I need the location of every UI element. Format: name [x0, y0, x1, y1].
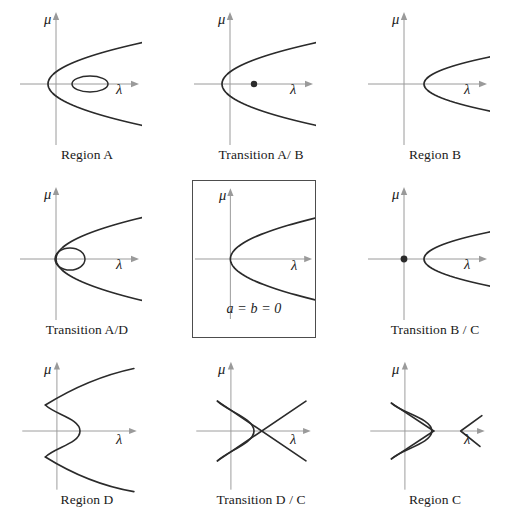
x-axis-arrow [479, 81, 487, 87]
panel-region-d: Region Dμλ [0, 350, 174, 520]
x-axis-arrow [477, 428, 485, 434]
plot-region-c [366, 355, 490, 507]
plot-region-d [18, 355, 142, 507]
panel-frame-a-b-zero: μλa = b = 0 [192, 180, 316, 338]
panel-transition-b-c: Transition B / Cμλ [348, 175, 522, 350]
plot-region-b [366, 5, 490, 163]
x-axis-arrow [129, 428, 137, 434]
x-axis-arrow [131, 256, 139, 262]
y-axis-arrow [54, 362, 60, 370]
lower-edge [391, 431, 433, 459]
y-axis-arrow [402, 362, 408, 370]
marker-dot-0 [401, 256, 408, 263]
panel-caption-a-b-zero: a = b = 0 [193, 301, 315, 317]
panel-a-b-zero: μλa = b = 0 [174, 175, 348, 350]
plot-region-a [18, 5, 142, 163]
panel-transition-a-b: Transition A/ Bμλ [174, 0, 348, 175]
panel-frame-transition-b-c: μλ [366, 180, 490, 338]
lower-branch [45, 457, 134, 492]
panel-frame-region-c: μλ [366, 355, 490, 507]
x-axis-arrow [479, 256, 487, 262]
panel-frame-region-a: μλ [18, 5, 142, 163]
panel-frame-transition-a-d: μλ [18, 180, 142, 338]
plot-transition-a-d [18, 180, 142, 338]
upper-branch [45, 368, 134, 405]
panel-region-c: Region Cμλ [348, 350, 522, 520]
y-axis-arrow [53, 12, 59, 20]
y-axis-arrow [227, 188, 233, 196]
x-axis-arrow [131, 81, 139, 87]
y-axis-arrow [227, 12, 233, 20]
panel-frame-region-d: μλ [18, 355, 142, 507]
x-axis-arrow [303, 428, 311, 434]
y-axis-arrow [401, 12, 407, 20]
panel-grid: Region AμλTransition A/ BμλRegion BμλTra… [0, 0, 522, 520]
plot-transition-d-c [192, 355, 316, 507]
plot-transition-b-c [366, 180, 490, 338]
x-axis-arrow [304, 256, 312, 262]
y-axis-arrow [228, 362, 234, 370]
y-axis-arrow [401, 187, 407, 195]
upper-edge [391, 403, 433, 431]
panel-frame-transition-a-b: μλ [192, 5, 316, 163]
panel-region-b: Region Bμλ [348, 0, 522, 175]
panel-transition-a-d: Transition A/Dμλ [0, 175, 174, 350]
panel-frame-transition-d-c: μλ [192, 355, 316, 507]
panel-frame-region-b: μλ [366, 5, 490, 163]
panel-transition-d-c: Transition D / Cμλ [174, 350, 348, 520]
marker-dot-0 [251, 81, 257, 87]
x-axis-arrow [305, 81, 313, 87]
panel-region-a: Region Aμλ [0, 0, 174, 175]
plot-transition-a-b [192, 5, 316, 163]
y-axis-arrow [53, 187, 59, 195]
